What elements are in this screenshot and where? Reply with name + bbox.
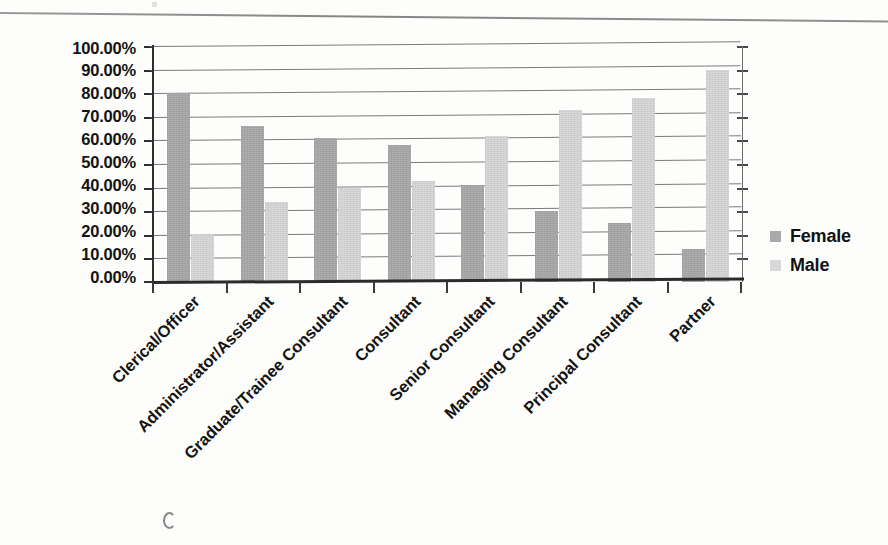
bar-female[interactable] — [388, 145, 411, 282]
bar-female[interactable] — [167, 93, 190, 282]
legend-item-male[interactable]: Male — [770, 251, 851, 280]
bar-female[interactable] — [461, 185, 484, 282]
x-tick-label: Administrator/Assistant — [133, 292, 277, 436]
legend-swatch-icon — [770, 260, 781, 271]
x-tick-label: Partner — [666, 292, 720, 346]
bar-female[interactable] — [241, 126, 264, 282]
bar-male[interactable] — [706, 70, 729, 282]
chart-legend: Female Male — [770, 222, 851, 280]
bar-male[interactable] — [191, 235, 214, 282]
y-tick-label: 70.00% — [81, 108, 136, 125]
bar-groups — [154, 46, 742, 282]
y-tick-label: 20.00% — [81, 223, 136, 240]
x-tick-label: Graduate/Trainee Consultant — [180, 292, 351, 463]
bar-female[interactable] — [535, 211, 558, 282]
bar-group — [522, 46, 596, 282]
x-axis-labels: Clerical/Officer Administrator/Assistant… — [0, 284, 884, 484]
bar-male[interactable] — [265, 202, 288, 282]
bar-male[interactable] — [632, 98, 655, 282]
y-tick-label: 90.00% — [81, 62, 136, 79]
bar-male[interactable] — [412, 181, 435, 282]
legend-label: Female — [790, 226, 851, 247]
bar-male[interactable] — [338, 188, 361, 282]
y-tick-label: 50.00% — [81, 154, 136, 171]
bar-group — [448, 46, 522, 282]
y-tick-label: 80.00% — [81, 85, 136, 102]
bar-male[interactable] — [485, 136, 508, 282]
bar-group — [375, 46, 449, 282]
y-tick-label: 100.00% — [72, 40, 136, 57]
x-tick-label: Managing Consultant — [441, 292, 572, 423]
y-tick-label: 40.00% — [81, 177, 136, 194]
bar-male[interactable] — [559, 110, 582, 282]
y-tick-label: 60.00% — [81, 131, 136, 148]
legend-label: Male — [790, 255, 829, 276]
bar-female[interactable] — [608, 223, 631, 282]
legend-swatch-icon — [770, 231, 781, 242]
bar-group — [228, 46, 302, 282]
bar-group — [154, 46, 228, 282]
bar-female[interactable] — [314, 138, 337, 282]
legend-item-female[interactable]: Female — [770, 222, 851, 251]
x-tick-label: Consultant — [351, 292, 425, 366]
bar-group — [595, 46, 669, 282]
y-tick-label: 30.00% — [81, 200, 136, 217]
y-tick-label: 10.00% — [81, 246, 136, 263]
right-axis-line — [742, 46, 743, 282]
bar-group — [669, 46, 743, 282]
bar-group — [301, 46, 375, 282]
